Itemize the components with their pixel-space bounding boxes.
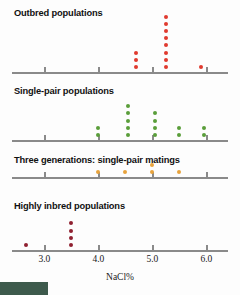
panel-label-highly-inbred: Highly inbred populations [14, 201, 125, 211]
plot-area-highly-inbred [0, 215, 240, 280]
data-point [164, 36, 168, 40]
data-point [134, 51, 138, 55]
data-point [153, 119, 157, 123]
plot-area-single-pair [0, 80, 240, 150]
data-point [153, 111, 157, 115]
data-point [199, 65, 203, 69]
data-point [164, 15, 168, 19]
data-point [123, 170, 127, 174]
data-point [69, 236, 73, 240]
corner-color-block [0, 282, 48, 295]
data-point [177, 133, 181, 137]
data-point [150, 170, 154, 174]
x-axis-tick-label: 5.0 [137, 254, 167, 264]
axis-tick [206, 67, 207, 72]
axis-tick [44, 245, 45, 250]
panel-highly-inbred: Highly inbred populations [0, 215, 240, 280]
axis-tick [206, 172, 207, 177]
axis-line [12, 177, 228, 179]
data-point [164, 22, 168, 26]
data-point [96, 126, 100, 130]
data-point [134, 58, 138, 62]
axis-tick [44, 135, 45, 140]
data-point [69, 243, 73, 247]
axis-tick [152, 67, 153, 72]
x-axis-tick-label: 3.0 [29, 254, 59, 264]
panel-outbred: Outbred populations [0, 0, 240, 80]
axis-line [12, 250, 228, 252]
axis-tick [98, 67, 99, 72]
x-axis-title: NaCl% [0, 272, 240, 282]
x-axis-tick-label: 6.0 [191, 254, 221, 264]
data-point [126, 133, 130, 137]
data-point [69, 229, 73, 233]
data-point [150, 163, 154, 167]
data-point [177, 126, 181, 130]
data-point [202, 133, 206, 137]
data-point [177, 170, 181, 174]
data-point [96, 170, 100, 174]
data-point [24, 243, 28, 247]
data-point [153, 133, 157, 137]
data-point [164, 58, 168, 62]
axis-tick [44, 172, 45, 177]
axis-tick [206, 135, 207, 140]
data-point [202, 126, 206, 130]
data-point [164, 51, 168, 55]
data-point [164, 43, 168, 47]
data-point [126, 119, 130, 123]
strip-plot-figure: Outbred populations Single-pair populati… [0, 0, 240, 295]
data-point [96, 133, 100, 137]
data-point [126, 126, 130, 130]
axis-tick [98, 245, 99, 250]
data-point [164, 29, 168, 33]
x-axis-tick-label: 4.0 [83, 254, 113, 264]
axis-tick [44, 67, 45, 72]
axis-tick [152, 245, 153, 250]
plot-area-outbred [0, 0, 240, 80]
data-point [153, 126, 157, 130]
data-point [126, 111, 130, 115]
axis-line [12, 140, 228, 142]
data-point [126, 104, 130, 108]
panel-single-pair: Single-pair populations [0, 80, 240, 150]
axis-tick [206, 245, 207, 250]
axis-line [12, 72, 228, 74]
data-point [134, 65, 138, 69]
data-point [164, 65, 168, 69]
data-point [69, 221, 73, 225]
